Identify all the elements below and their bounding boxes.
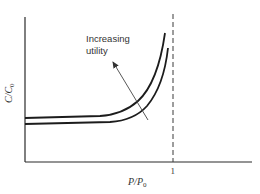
y-axis-label: C/C0 xyxy=(3,83,16,103)
increasing-arrow xyxy=(113,62,148,120)
annotation-line1: Increasing xyxy=(86,33,130,44)
chart: Increasing utility 1 P/P0 C/C0 xyxy=(0,0,260,194)
x-tick-1: 1 xyxy=(171,166,176,176)
x-axis-label: P/P0 xyxy=(127,176,147,189)
curve-lower xyxy=(25,48,168,124)
annotation-line2: utility xyxy=(86,45,108,56)
